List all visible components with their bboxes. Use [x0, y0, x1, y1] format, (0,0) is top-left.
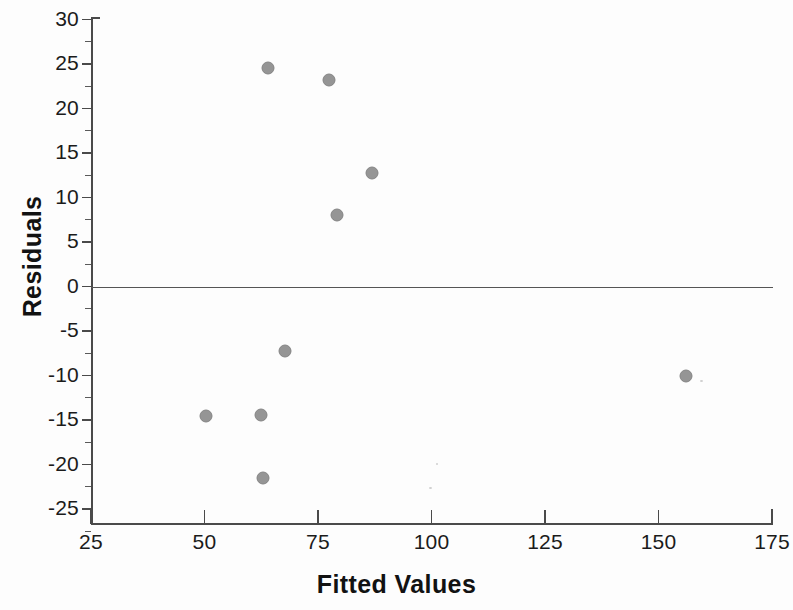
y-tick [82, 241, 91, 243]
data-point [322, 74, 335, 87]
scan-speckle [700, 380, 703, 382]
x-tick [658, 510, 660, 524]
y-axis-title: Residuals [18, 127, 47, 387]
y-tick [82, 464, 91, 466]
data-point [255, 408, 268, 421]
y-tick [82, 63, 91, 65]
y-tick-label: -20 [48, 452, 79, 476]
y-minor-tick [85, 264, 91, 265]
zero-reference-line [91, 287, 773, 288]
y-tick-label: 30 [55, 7, 79, 31]
y-tick-label: 10 [55, 185, 79, 209]
y-tick [82, 108, 91, 110]
y-minor-tick [85, 442, 91, 443]
y-tick-label: -10 [48, 363, 79, 387]
y-minor-tick [85, 397, 91, 398]
residual-scatter-plot-figure: 302520151050-5-10-15-20-25 2550751001251… [0, 0, 793, 610]
y-minor-tick [85, 353, 91, 354]
x-tick-label: 175 [754, 530, 790, 554]
y-tick-label: 5 [67, 229, 79, 253]
y-tick [82, 330, 91, 332]
y-tick-label: -15 [48, 407, 79, 431]
y-tick [82, 286, 91, 288]
y-minor-tick [85, 219, 91, 220]
y-tick [82, 419, 91, 421]
x-tick-label: 25 [79, 530, 103, 554]
x-tick [431, 510, 433, 524]
data-point [199, 409, 212, 422]
y-axis-line [91, 17, 93, 524]
data-point [366, 167, 379, 180]
y-minor-tick [85, 41, 91, 42]
y-axis-top-cap [91, 17, 100, 19]
y-tick [82, 152, 91, 154]
y-tick-label: -25 [48, 496, 79, 520]
y-minor-tick [85, 86, 91, 87]
y-tick-label: -5 [60, 318, 79, 342]
x-tick [204, 510, 206, 524]
y-minor-tick [85, 308, 91, 309]
y-tick [82, 19, 91, 21]
x-tick [771, 510, 773, 524]
scan-speckle [436, 463, 438, 465]
x-axis-title: Fitted Values [0, 570, 793, 599]
y-minor-tick [85, 130, 91, 131]
data-point [331, 209, 344, 222]
x-tick-label: 50 [193, 530, 217, 554]
x-tick [317, 510, 319, 524]
scan-speckle [429, 487, 432, 489]
y-tick-label: 20 [55, 96, 79, 120]
y-tick-label: 15 [55, 140, 79, 164]
x-tick [544, 510, 546, 524]
x-tick-label: 125 [527, 530, 563, 554]
x-tick-label: 75 [306, 530, 330, 554]
x-tick-label: 100 [414, 530, 450, 554]
y-minor-tick [85, 175, 91, 176]
data-point [262, 61, 275, 74]
y-tick [82, 375, 91, 377]
data-point [278, 345, 291, 358]
data-point [257, 471, 270, 484]
y-tick [82, 197, 91, 199]
x-tick-label: 150 [641, 530, 677, 554]
y-minor-tick [85, 486, 91, 487]
y-tick-label: 25 [55, 51, 79, 75]
data-point [679, 369, 692, 382]
y-tick-label: 0 [67, 274, 79, 298]
x-tick [90, 510, 92, 524]
